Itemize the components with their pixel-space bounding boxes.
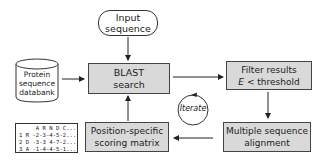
matrix-row: 1 R -2-3-4-5-2... bbox=[19, 132, 74, 139]
multiple-sequence-alignment-node: Multiple sequence alignment bbox=[223, 122, 311, 152]
db-label-2: sequence bbox=[16, 79, 58, 88]
threshold-text: < threshold bbox=[244, 77, 300, 87]
input-sequence-node: Input sequence bbox=[98, 10, 158, 36]
db-label-1: Protein bbox=[16, 70, 58, 79]
blast-label-2: search bbox=[113, 79, 145, 91]
filter-results-node: Filter results E < threshold bbox=[226, 61, 312, 90]
scoring-matrix-table: A R N D C...1 R -2-3-4-5-2...2 D -3-3 4-… bbox=[15, 123, 78, 153]
input-label-2: sequence bbox=[105, 23, 151, 34]
db-label-3: databank bbox=[16, 88, 58, 97]
blast-search-node: BLAST search bbox=[88, 63, 170, 94]
matrix-header: A R N D C... bbox=[19, 125, 74, 132]
input-label-1: Input bbox=[116, 12, 141, 23]
matrix-row: 3 A -1-4-4-5-1... bbox=[19, 146, 74, 153]
pssm-node: Position-specific scoring matrix bbox=[85, 122, 169, 152]
filter-label-2: E < threshold bbox=[238, 76, 299, 88]
pssm-label-2: scoring matrix bbox=[95, 137, 160, 149]
msa-label-2: alignment bbox=[244, 137, 289, 149]
matrix-row: 2 D -3-3 4-7-2... bbox=[19, 139, 74, 146]
blast-label-1: BLAST bbox=[114, 67, 144, 79]
database-label: Protein sequence databank bbox=[16, 70, 58, 97]
filter-label-1: Filter results bbox=[241, 64, 296, 76]
iterate-label: Iterate bbox=[178, 104, 208, 113]
msa-label-1: Multiple sequence bbox=[226, 125, 308, 137]
pssm-label-1: Position-specific bbox=[91, 125, 163, 137]
